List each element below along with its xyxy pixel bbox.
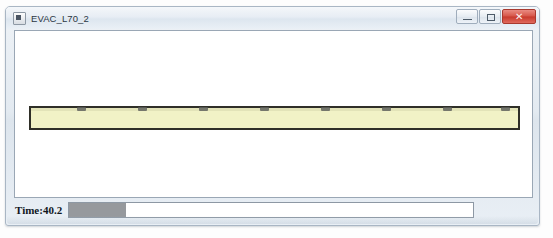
window-controls: ✕: [456, 9, 536, 24]
agent-marker: [199, 107, 208, 111]
close-icon: ✕: [503, 10, 535, 23]
agent-marker: [321, 107, 330, 111]
agent-marker: [443, 107, 452, 111]
page-root: EVAC_L70_2 ✕ Time:40.2: [0, 0, 553, 238]
simulation-canvas[interactable]: [14, 30, 533, 198]
application-window: EVAC_L70_2 ✕ Time:40.2: [5, 6, 540, 226]
agent-marker: [382, 107, 391, 111]
agent-marker: [501, 107, 510, 111]
maximize-icon: [487, 14, 495, 21]
corridor-geometry: [29, 106, 520, 130]
close-button[interactable]: ✕: [502, 9, 536, 24]
agent-marker: [77, 107, 86, 111]
title-bar[interactable]: EVAC_L70_2 ✕: [6, 7, 539, 29]
time-progress-fill: [69, 203, 126, 217]
maximize-button[interactable]: [479, 9, 501, 24]
agent-marker: [138, 107, 147, 111]
window-bottom-edge: [7, 216, 538, 224]
agent-marker: [260, 107, 269, 111]
simulation-time-label: Time:40.2: [14, 204, 62, 216]
minimize-icon: [463, 19, 472, 20]
window-title: EVAC_L70_2: [31, 13, 89, 24]
minimize-button[interactable]: [456, 9, 478, 24]
application-icon: [13, 12, 26, 25]
